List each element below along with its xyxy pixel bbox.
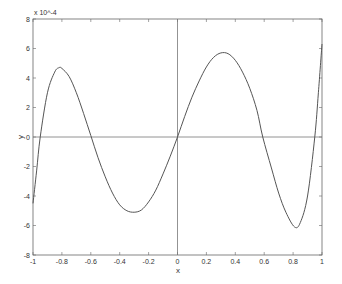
x-tick-label: -0.8 [56,258,68,265]
y-tick-label: 8 [26,16,30,23]
y-tick-label: -2 [24,163,30,170]
x-tick-label: -1 [30,258,36,265]
y-tick-label: 2 [26,104,30,111]
x-tick-label: -0.6 [85,258,97,265]
y-tick-label: -6 [24,222,30,229]
x-tick-label: 0.2 [202,258,212,265]
y-tick-label: 6 [26,45,30,52]
x-tick-label: 0.4 [230,258,240,265]
y-scale-exponent: x 10^-4 [34,9,57,16]
x-tick-label: 0.8 [288,258,298,265]
line-chart: -1-0.8-0.6-0.4-0.200.20.40.60.81-8-6-4-2… [0,0,342,284]
y-tick-label: -8 [24,252,30,259]
x-tick-label: -0.4 [114,258,126,265]
y-tick-label: -4 [24,193,30,200]
y-tick-label: 4 [26,75,30,82]
x-tick-label: -0.2 [143,258,155,265]
x-tick-label: 0.6 [259,258,269,265]
x-tick-label: 0 [176,258,180,265]
x-tick-label: 1 [320,258,324,265]
x-axis-label: x [176,266,180,275]
y-tick-label: 0 [26,134,30,141]
y-axis-label: y [16,135,25,139]
